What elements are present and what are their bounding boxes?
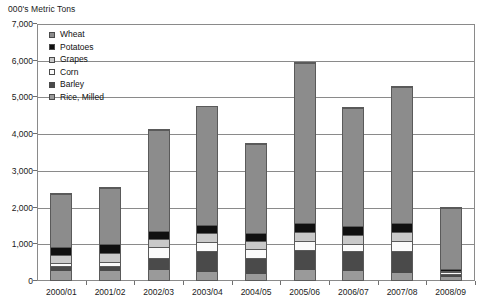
bar-segment-rice-milled[interactable] [246, 274, 266, 280]
y-axis-tick-mark-4000 [33, 133, 37, 134]
bar-segment-corn[interactable] [246, 249, 266, 258]
bar-segment-corn[interactable] [197, 242, 217, 251]
bar-2007-08[interactable] [391, 86, 413, 281]
legend-item-wheat[interactable]: Wheat [49, 29, 104, 40]
legend-item-corn[interactable]: Corn [49, 67, 104, 78]
bar-2006-07[interactable] [342, 107, 364, 281]
x-axis-tick-label-2006-07: 2006/07 [338, 287, 369, 297]
bar-2004-05[interactable] [245, 143, 267, 281]
x-axis-tick-mark-5 [329, 281, 330, 285]
y-axis-tick-label-5000: 5,000 [0, 92, 33, 102]
x-axis-tick-label-2000-01: 2000/01 [46, 287, 77, 297]
bar-2001-02[interactable] [99, 187, 121, 281]
bar-segment-potatoes[interactable] [100, 244, 120, 253]
bar-segment-potatoes[interactable] [295, 223, 315, 232]
bar-2005-06[interactable] [294, 62, 316, 281]
bar-segment-rice-milled[interactable] [197, 272, 217, 280]
x-axis-tick-label-2001-02: 2001/02 [95, 287, 126, 297]
legend-swatch-icon [49, 44, 55, 50]
bar-segment-rice-milled[interactable] [51, 271, 71, 280]
bar-segment-wheat[interactable] [100, 188, 120, 244]
bar-2008-09[interactable] [440, 207, 462, 281]
bar-segment-rice-milled[interactable] [343, 271, 363, 280]
legend-swatch-icon [49, 32, 55, 38]
bar-segment-wheat[interactable] [51, 194, 71, 247]
y-axis-tick-label-4000: 4,000 [0, 129, 33, 139]
bar-segment-wheat[interactable] [295, 63, 315, 222]
bar-segment-potatoes[interactable] [149, 231, 169, 239]
bar-segment-barley[interactable] [295, 250, 315, 270]
bar-segment-wheat[interactable] [246, 144, 266, 233]
bar-segment-wheat[interactable] [392, 87, 412, 224]
legend-swatch-icon [49, 57, 55, 63]
bar-segment-grapes[interactable] [246, 241, 266, 249]
legend-item-rice-milled[interactable]: Rice, Milled [49, 92, 104, 103]
y-axis-tick-label-7000: 7,000 [0, 19, 33, 29]
bar-2002-03[interactable] [148, 129, 170, 281]
y-axis-tick-mark-2000 [33, 207, 37, 208]
x-axis-tick-label-2002-03: 2002/03 [143, 287, 174, 297]
x-axis-tick-mark-2 [183, 281, 184, 285]
x-axis-tick-mark-8 [475, 281, 476, 285]
y-axis-tick-label-6000: 6,000 [0, 56, 33, 66]
bar-segment-corn[interactable] [295, 241, 315, 250]
x-axis-tick-label-2007-08: 2007/08 [387, 287, 418, 297]
legend-item-label: Rice, Milled [60, 92, 104, 103]
legend-item-grapes[interactable]: Grapes [49, 54, 104, 65]
bar-segment-barley[interactable] [343, 251, 363, 272]
bar-segment-wheat[interactable] [343, 108, 363, 226]
legend-item-label: Corn [60, 67, 78, 78]
bar-segment-rice-milled[interactable] [392, 273, 412, 280]
bar-segment-barley[interactable] [197, 251, 217, 271]
bar-segment-barley[interactable] [149, 258, 169, 270]
bar-2003-04[interactable] [196, 106, 218, 281]
x-axis-tick-label-2005-06: 2005/06 [289, 287, 320, 297]
legend-item-potatoes[interactable]: Potatoes [49, 42, 104, 53]
x-axis-tick-mark-4 [280, 281, 281, 285]
bar-segment-potatoes[interactable] [392, 223, 412, 232]
y-axis-tick-mark-0 [33, 280, 37, 281]
bar-segment-rice-milled[interactable] [149, 270, 169, 280]
bar-segment-rice-milled[interactable] [441, 277, 461, 280]
stacked-bar-chart: 000's Metric Tons 01,0002,0003,0004,0005… [0, 0, 483, 307]
y-axis-tick-label-0: 0 [0, 276, 33, 286]
bar-segment-corn[interactable] [343, 244, 363, 251]
bar-segment-corn[interactable] [149, 247, 169, 257]
legend-swatch-icon [49, 94, 55, 100]
legend-swatch-icon [49, 82, 55, 88]
y-axis-title: 000's Metric Tons [8, 4, 75, 14]
bar-segment-wheat[interactable] [149, 130, 169, 231]
bar-segment-grapes[interactable] [149, 239, 169, 248]
bar-segment-grapes[interactable] [295, 232, 315, 241]
legend-item-barley[interactable]: Barley [49, 79, 104, 90]
bar-segment-barley[interactable] [392, 251, 412, 273]
bar-segment-potatoes[interactable] [51, 247, 71, 255]
y-axis-tick-mark-6000 [33, 60, 37, 61]
y-axis-tick-label-3000: 3,000 [0, 166, 33, 176]
bar-segment-potatoes[interactable] [197, 225, 217, 233]
bar-segment-grapes[interactable] [197, 233, 217, 242]
bar-segment-potatoes[interactable] [246, 233, 266, 240]
bar-segment-grapes[interactable] [51, 255, 71, 264]
bar-segment-grapes[interactable] [392, 232, 412, 241]
bar-segment-grapes[interactable] [100, 253, 120, 262]
x-axis-tick-label-2004-05: 2004/05 [241, 287, 272, 297]
bar-segment-corn[interactable] [392, 241, 412, 250]
y-axis-tick-label-1000: 1,000 [0, 239, 33, 249]
legend-item-label: Potatoes [60, 42, 94, 53]
legend-item-label: Grapes [60, 54, 88, 65]
bar-segment-potatoes[interactable] [343, 226, 363, 235]
bar-segment-wheat[interactable] [197, 106, 217, 224]
bar-segment-wheat[interactable] [441, 208, 461, 269]
bar-segment-barley[interactable] [246, 258, 266, 275]
y-axis-tick-label-2000: 2,000 [0, 203, 33, 213]
x-axis-tick-mark-0 [86, 281, 87, 285]
x-axis-tick-mark-3 [232, 281, 233, 285]
x-axis-tick-label-2008-09: 2008/09 [435, 287, 466, 297]
bar-segment-rice-milled[interactable] [295, 270, 315, 280]
x-axis-tick-mark-7 [426, 281, 427, 285]
legend-swatch-icon [49, 69, 55, 75]
bar-segment-grapes[interactable] [343, 235, 363, 244]
bar-2000-01[interactable] [50, 193, 72, 281]
bar-segment-rice-milled[interactable] [100, 271, 120, 280]
